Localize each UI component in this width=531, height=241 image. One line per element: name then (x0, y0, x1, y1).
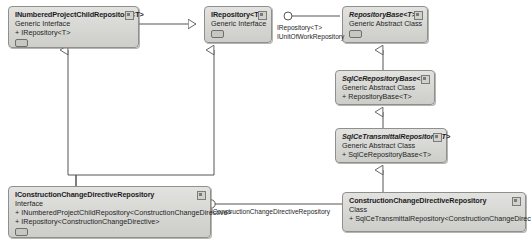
collapse-icon[interactable] (421, 75, 430, 84)
class-node-construction-change-directive-repository[interactable]: ConstructionChangeDirectiveRepository Cl… (342, 192, 526, 232)
node-title: RepositoryBase<T> (349, 10, 422, 19)
edge-irepository-lollipop (284, 12, 340, 20)
members-glyph-icon (211, 30, 224, 38)
node-stereotype: Generic Abstract Class (342, 141, 441, 150)
edge-label-line-2: IUnitOfWorkRepository (277, 33, 344, 42)
node-stereotype: Generic Interface (211, 19, 266, 28)
collapse-icon[interactable] (258, 11, 267, 20)
edge-label-line-1: IRepository<T> (277, 24, 344, 33)
node-stereotype: Generic Abstract Class (349, 19, 422, 28)
class-node-inumbered-project-child-repository[interactable]: INumberedProjectChildRepository<T> Gener… (8, 6, 139, 48)
collapse-icon[interactable] (512, 197, 521, 206)
node-title: IConstructionChangeDirectiveRepository (15, 190, 205, 199)
node-stereotype: Class (349, 205, 520, 214)
members-glyph-icon (15, 39, 28, 47)
uml-class-diagram: INumberedProjectChildRepository<T> Gener… (0, 0, 531, 241)
node-title: ConstructionChangeDirectiveRepository (349, 196, 520, 205)
node-title: INumberedProjectChildRepository<T> (15, 10, 133, 19)
edge-iccd-to-irepository (76, 50, 214, 186)
collapse-icon[interactable] (433, 133, 442, 142)
node-member: + IRepository<T> (15, 28, 133, 37)
members-glyph-icon (349, 30, 362, 38)
edge-iccd-to-inumbered (68, 50, 76, 186)
node-stereotype: Interface (15, 199, 205, 208)
node-title: SqlCeRepositoryBase<T> (342, 74, 429, 83)
class-node-iconstruction-change-directive-repository[interactable]: IConstructionChangeDirectiveRepository I… (8, 186, 211, 238)
collapse-icon[interactable] (197, 191, 206, 200)
node-stereotype: Generic Interface (15, 19, 133, 28)
members-glyph-icon (15, 228, 28, 236)
edge-label-irepository-provided: IRepository<T> IUnitOfWorkRepository (277, 24, 344, 41)
class-node-repository-base[interactable]: RepositoryBase<T> Generic Abstract Class (342, 6, 428, 43)
class-node-sqlce-repository-base[interactable]: SqlCeRepositoryBase<T> Generic Abstract … (335, 70, 435, 105)
node-member: + IRepository<ConstructionChangeDirectiv… (15, 217, 205, 226)
edge-label-iccd-provided: IConstructionChangeDirectiveRepository (211, 208, 330, 217)
class-node-irepository[interactable]: IRepository<T> Generic Interface (204, 6, 272, 43)
node-title: SqlCeTransmittalRepository<T> (342, 132, 441, 141)
node-member: + RepositoryBase<T> (342, 92, 429, 101)
class-node-sqlce-transmittal-repository[interactable]: SqlCeTransmittalRepository<T> Generic Ab… (335, 128, 447, 163)
node-member: + SqlCeTransmittalRepository<Constructio… (349, 214, 520, 223)
node-stereotype: Generic Abstract Class (342, 83, 429, 92)
node-member: + SqlCeRepositoryBase<T> (342, 150, 441, 159)
node-member: + INumberedProjectChildRepository<Constr… (15, 208, 205, 217)
edge-iccd-lollipop (207, 200, 342, 208)
collapse-icon[interactable] (414, 11, 423, 20)
collapse-icon[interactable] (125, 11, 134, 20)
